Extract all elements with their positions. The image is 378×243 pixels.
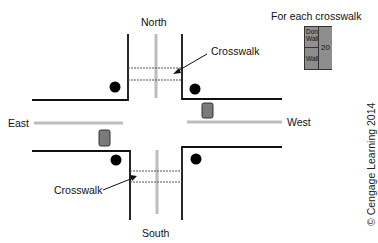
dont-walk-line2: Walk [306,35,318,42]
car-westbound [202,103,213,118]
dont-walk-indicator: Don't Walk [305,27,318,48]
west-label: West [287,116,311,128]
countdown-timer: 20 [319,27,332,69]
crosswalk-arrow-top [173,54,207,74]
east-label: East [8,117,29,129]
north-label: North [141,16,167,28]
pedestrian-signal: Don't Walk Walk 20 [304,26,332,70]
crosswalk-label-top: Crosswalk [211,45,259,57]
pedestrian-southeast [191,154,202,165]
walk-indicator: Walk [305,48,318,69]
copyright-notice: © Cengage Learning 2014 [365,103,377,226]
pedestrian-northeast [190,84,201,95]
legend-title: For each crosswalk [271,10,361,22]
dont-walk-line1: Don't [306,28,318,35]
pedestrian-northwest [110,82,121,93]
car-eastbound [99,130,110,146]
crosswalk-label-bottom: Crosswalk [54,184,102,196]
signal-indicators: Don't Walk Walk [305,27,319,69]
south-label: South [142,227,169,239]
pedestrian-southwest [111,155,122,166]
